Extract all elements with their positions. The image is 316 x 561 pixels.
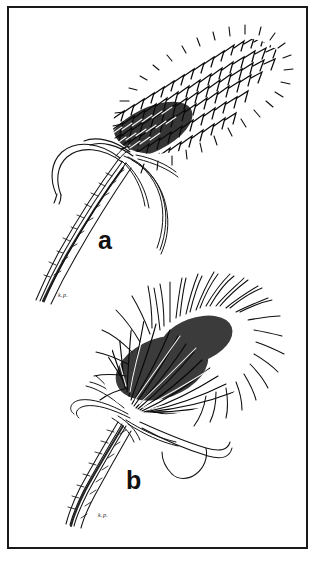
- artist-signature-b: k.p.: [98, 512, 108, 518]
- figure-a-stem-hairs: [44, 170, 124, 277]
- figure-b-seed-head: [88, 272, 289, 436]
- figure-b-leaf-blade: [140, 422, 232, 479]
- figure-a-seed-head: [95, 14, 301, 177]
- botanical-drawing-canvas: [0, 0, 316, 561]
- artist-signature-a: k.p.: [58, 292, 68, 298]
- figure-a-stem: [36, 160, 131, 304]
- figure-a-drawing: [36, 14, 301, 304]
- figure-label-a: a: [98, 228, 112, 253]
- figure-a-basal-awns: [116, 138, 178, 254]
- figure-label-b: b: [126, 468, 141, 493]
- illustration-plate: a b k.p. k.p.: [0, 0, 316, 561]
- figure-b-drawing: [66, 272, 288, 528]
